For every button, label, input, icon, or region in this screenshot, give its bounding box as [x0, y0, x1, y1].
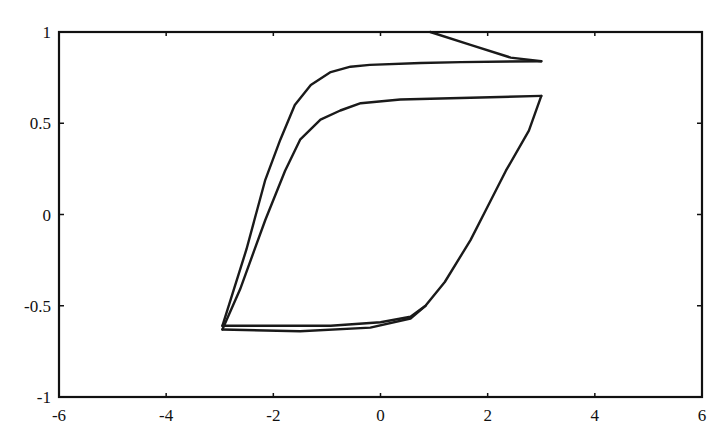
y-tick-label: 0.5: [30, 114, 51, 133]
x-tick-label: 0: [376, 406, 385, 425]
x-tick-label: 2: [483, 406, 492, 425]
curves: [222, 32, 541, 331]
x-tick-label: 6: [698, 406, 707, 425]
hysteresis-chart: -6-4-20246-1-0.500.51: [0, 0, 725, 445]
axes-frame: [59, 32, 702, 397]
y-tick-label: -1: [37, 388, 51, 407]
x-tick-label: -4: [159, 406, 174, 425]
x-tick-label: -2: [266, 406, 280, 425]
x-tick-label: -6: [52, 406, 66, 425]
curve-inner-loop-return: [222, 96, 541, 330]
axes: -6-4-20246-1-0.500.51: [24, 23, 706, 425]
curve-outer-loop-descending: [430, 32, 541, 61]
y-tick-label: -0.5: [24, 297, 51, 316]
x-tick-label: 4: [591, 406, 600, 425]
y-tick-label: 0: [43, 206, 52, 225]
y-tick-label: 1: [43, 23, 52, 42]
